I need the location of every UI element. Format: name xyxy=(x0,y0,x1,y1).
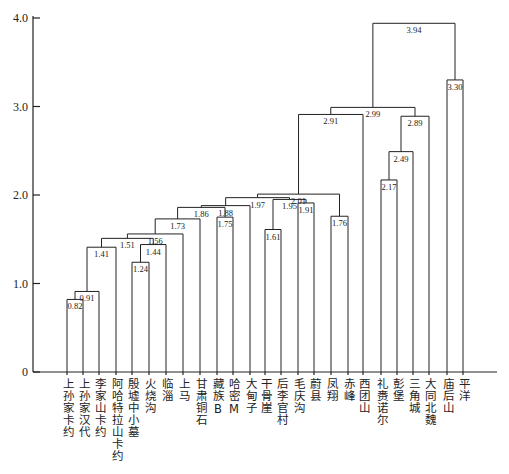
leaf-label: 蔚县 xyxy=(307,378,321,402)
merge-height-label: 1.86 xyxy=(194,209,209,219)
leaf-label: 三角城 xyxy=(406,378,420,414)
cluster-link xyxy=(447,80,463,372)
merge-height-label: 2.89 xyxy=(408,118,423,128)
merge-height-label: 1.97 xyxy=(250,200,265,210)
leaf-label: 西团山 xyxy=(356,378,370,414)
leaf-label: 上马 xyxy=(176,378,190,402)
y-tick-label: 1.0 xyxy=(13,277,28,291)
merge-height-label: 2.01 xyxy=(291,196,306,206)
merge-height-label: 2.49 xyxy=(394,154,409,164)
y-tick-label: 0 xyxy=(22,365,28,379)
merge-height-label: 1.24 xyxy=(133,264,149,274)
y-tick-label: 4.0 xyxy=(13,11,28,25)
leaf-label: 凤翔 xyxy=(324,378,338,402)
leaf-label: 后李官村 xyxy=(274,378,288,426)
leaf-label: 大甸子 xyxy=(243,378,257,414)
merge-height-label: 2.99 xyxy=(365,109,380,119)
cluster-link xyxy=(217,217,233,372)
merge-height-label: 1.44 xyxy=(146,247,162,257)
cluster-link xyxy=(87,247,116,372)
leaf-label: 礼赉诺尔 xyxy=(374,378,388,426)
leaf-label: 上孙家卡约 xyxy=(60,378,74,438)
merge-height-label: 2.17 xyxy=(382,182,397,192)
leaf-label: 庙后山 xyxy=(440,378,454,414)
leaf-label: 哈密M xyxy=(226,378,240,416)
cluster-link xyxy=(381,180,397,372)
leaf-label: 殷墟中小墓 xyxy=(125,378,139,438)
leaf-label: 阿哈特拉山卡约 xyxy=(109,378,123,462)
y-tick-label: 3.0 xyxy=(13,100,28,114)
leaf-label: 临淄 xyxy=(159,378,173,402)
leaf-label: 毛庆沟 xyxy=(291,378,305,414)
merge-height-label: 1.76 xyxy=(332,218,347,228)
merge-height-label: 1.51 xyxy=(120,240,135,250)
y-axis: 01.02.03.04.0 xyxy=(13,11,497,379)
cluster-link xyxy=(298,203,314,372)
leaf-label: 李家山卡约 xyxy=(92,378,106,438)
leaf-label: 上孙家汉代 xyxy=(76,378,90,438)
leaf-label: 藏族B xyxy=(210,378,224,416)
merge-height-label: 1.91 xyxy=(299,205,314,215)
merge-height-label: 1.88 xyxy=(218,208,233,218)
merge-height-label: 1.73 xyxy=(170,221,185,231)
merge-height-label: 3.94 xyxy=(407,25,423,35)
merge-height-label: 1.75 xyxy=(218,219,233,229)
leaf-label: 甘肃铜石 xyxy=(193,378,207,426)
leaf-label: 赤峰 xyxy=(341,378,355,402)
leaf-label: 干骨崖 xyxy=(258,378,272,414)
dendrogram-links xyxy=(67,23,463,372)
merge-height-label: 1.56 xyxy=(148,236,163,246)
leaf-label: 彭堡 xyxy=(390,378,404,402)
leaf-label: 火烧沟 xyxy=(142,378,156,414)
cluster-link xyxy=(373,23,455,107)
leaf-label: 大同北魏 xyxy=(422,378,436,426)
cluster-link xyxy=(201,206,250,372)
merge-height-label: 2.91 xyxy=(323,116,338,126)
cluster-link xyxy=(132,262,149,372)
merge-height-label: 3.30 xyxy=(448,82,463,92)
merge-height-label: 1.61 xyxy=(266,232,281,242)
cluster-link xyxy=(331,216,348,372)
y-tick-label: 2.0 xyxy=(13,188,28,202)
cluster-link xyxy=(265,230,281,372)
merge-height-label: 0.91 xyxy=(80,293,95,303)
merge-height-label: 1.41 xyxy=(94,249,109,259)
leaf-label: 平洋 xyxy=(456,378,470,402)
